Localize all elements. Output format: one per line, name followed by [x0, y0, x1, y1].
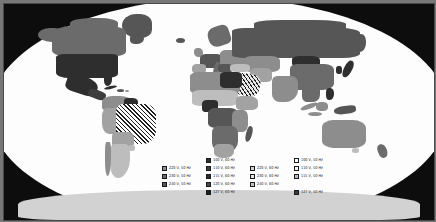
land-india — [272, 76, 298, 102]
legend-swatch — [162, 174, 167, 179]
legend-item[interactable]: 127 V, 60 Hz — [206, 189, 246, 196]
map-figure-frame: 100 V, 60 Hz100 V, 50 Hz220 V, 50 Hz110 … — [3, 3, 435, 221]
legend-label: 220 V, 50 Hz — [169, 166, 191, 171]
legend-swatch — [206, 190, 211, 195]
legend-item[interactable]: 230 V, 60 Hz — [250, 173, 290, 180]
legend-label: 110 V, 50 Hz — [301, 166, 323, 171]
land-puerto-rico — [125, 90, 129, 92]
legend-label: 220 V, 60 Hz — [257, 166, 279, 171]
legend-swatch — [250, 174, 255, 179]
land-libya-egypt — [220, 72, 242, 88]
legend-item[interactable]: 220 V, 50 Hz — [162, 165, 202, 172]
legend-label: 230 V, 50 Hz — [169, 174, 191, 179]
legend-swatch — [294, 174, 299, 179]
legend-label: 127 V, 60 Hz — [213, 190, 235, 195]
land-indonesia-java — [308, 112, 322, 116]
legend-label: 127 V, 50 Hz — [301, 190, 323, 195]
legend-label: 240 V, 60 Hz — [257, 182, 279, 187]
land-iceland — [176, 38, 185, 43]
legend-swatch — [206, 174, 211, 179]
land-philippines — [326, 88, 334, 100]
legend-swatch — [294, 158, 299, 163]
land-canada-arctic — [70, 18, 118, 30]
legend-item[interactable]: 100 V, 60 Hz — [206, 157, 246, 164]
legend-swatch — [206, 182, 211, 187]
land-indonesia-borneo — [316, 102, 328, 111]
land-turkey — [230, 64, 250, 72]
legend-item[interactable]: 110 V, 50 Hz — [294, 165, 336, 172]
land-canada — [52, 26, 126, 56]
legend-label: 230 V, 60 Hz — [257, 174, 279, 179]
land-indochina — [302, 84, 320, 102]
legend-label: 115 V, 60 Hz — [213, 174, 235, 179]
land-kamchatka — [354, 34, 366, 52]
land-australia — [322, 120, 366, 148]
legend-swatch — [250, 182, 255, 187]
land-korea — [336, 66, 342, 74]
legend-item[interactable]: 240 V, 50 Hz — [162, 181, 202, 188]
legend-item[interactable]: 240 V, 60 Hz — [250, 181, 290, 188]
land-siberia-north — [254, 20, 346, 32]
legend-item[interactable]: 115 V, 50 Hz — [294, 173, 336, 180]
legend-item[interactable]: 115 V, 60 Hz — [206, 173, 246, 180]
legend-label: 100 V, 60 Hz — [213, 158, 235, 163]
legend-item[interactable]: 120 V, 60 Hz — [206, 181, 246, 188]
land-hispaniola — [117, 89, 124, 92]
legend-swatch — [162, 182, 167, 187]
legend-item[interactable]: 110 V, 60 Hz — [206, 165, 246, 172]
legend-label: 240 V, 50 Hz — [169, 182, 191, 187]
legend-item[interactable]: 230 V, 50 Hz — [162, 173, 202, 180]
land-horn-of-africa — [236, 96, 258, 110]
screenshot-root: 100 V, 60 Hz100 V, 50 Hz220 V, 50 Hz110 … — [0, 0, 436, 222]
legend: 100 V, 60 Hz100 V, 50 Hz220 V, 50 Hz110 … — [162, 156, 350, 200]
legend-item[interactable]: 100 V, 50 Hz — [294, 157, 336, 164]
legend-swatch — [162, 166, 167, 171]
legend-item[interactable]: 127 V, 50 Hz — [294, 189, 336, 196]
legend-label: 110 V, 60 Hz — [213, 166, 235, 171]
legend-label: 115 V, 50 Hz — [301, 174, 323, 179]
legend-item[interactable]: 220 V, 60 Hz — [250, 165, 290, 172]
legend-swatch — [206, 166, 211, 171]
legend-label: 120 V, 60 Hz — [213, 182, 235, 187]
legend-swatch — [250, 166, 255, 171]
legend-label: 100 V, 50 Hz — [301, 158, 323, 163]
land-russia — [232, 28, 360, 58]
legend-swatch — [206, 158, 211, 163]
land-uruguay — [128, 145, 135, 151]
legend-swatch — [294, 166, 299, 171]
legend-swatch — [294, 190, 299, 195]
land-tasmania — [352, 148, 359, 153]
